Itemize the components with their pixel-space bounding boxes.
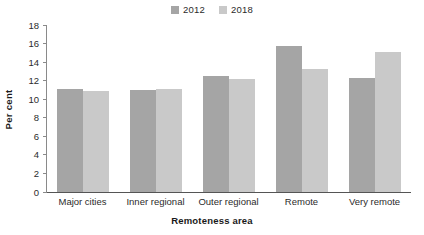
x-tick-label-major-cities: Major cities	[46, 196, 119, 207]
bar-2018-very-remote[interactable]	[375, 52, 401, 192]
legend-item-2018[interactable]: 2018	[219, 4, 253, 15]
y-tick-label: 6	[34, 130, 39, 141]
x-axis-title: Remoteness area	[0, 215, 424, 226]
y-tick-label: 18	[28, 19, 39, 30]
y-tick-label: 14	[28, 56, 39, 67]
y-tick-label: 16	[28, 38, 39, 49]
bar-2012-inner-regional[interactable]	[130, 90, 156, 192]
legend-label-2012: 2012	[183, 4, 205, 15]
bar-group	[193, 26, 266, 192]
plot-area: 024681012141618	[46, 26, 411, 193]
bar-group	[47, 26, 120, 192]
y-tick-label: 10	[28, 93, 39, 104]
bar-2018-outer-regional[interactable]	[229, 79, 255, 192]
legend-swatch-2012	[171, 6, 179, 14]
bar-group	[120, 26, 193, 192]
bar-2012-outer-regional[interactable]	[203, 76, 229, 192]
x-tick-label-remote: Remote	[265, 196, 338, 207]
y-tick-label: 2	[34, 167, 39, 178]
y-tick-label: 4	[34, 149, 39, 160]
y-axis-title-text: Per cent	[4, 90, 15, 130]
y-axis-title: Per cent	[2, 26, 16, 193]
bar-group	[265, 26, 338, 192]
bar-groups	[47, 26, 411, 192]
bar-2018-major-cities[interactable]	[83, 91, 109, 192]
x-tick-label-very-remote: Very remote	[338, 196, 411, 207]
bar-2012-major-cities[interactable]	[57, 89, 83, 192]
y-tick-label: 0	[34, 186, 39, 197]
x-tick-label-outer-regional: Outer regional	[192, 196, 265, 207]
legend-item-2012[interactable]: 2012	[171, 4, 205, 15]
bar-group	[338, 26, 411, 192]
legend-swatch-2018	[219, 6, 227, 14]
bar-2018-inner-regional[interactable]	[156, 89, 182, 192]
bar-2018-remote[interactable]	[302, 69, 328, 192]
x-axis-tick-labels: Major citiesInner regionalOuter regional…	[46, 196, 411, 207]
bar-2012-remote[interactable]	[276, 46, 302, 192]
x-tick-label-inner-regional: Inner regional	[119, 196, 192, 207]
y-tick-label: 8	[34, 112, 39, 123]
bar-chart: 2012 2018 Per cent 024681012141618 Major…	[0, 0, 424, 235]
y-tick-label: 12	[28, 75, 39, 86]
bar-2012-very-remote[interactable]	[349, 78, 375, 192]
legend-label-2018: 2018	[231, 4, 253, 15]
chart-legend: 2012 2018	[0, 4, 424, 15]
